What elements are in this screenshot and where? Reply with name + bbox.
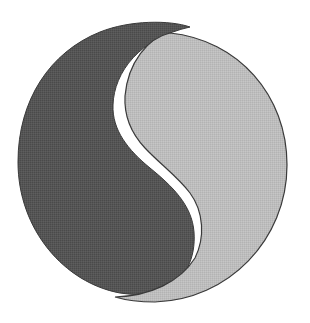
- yin-yang-emblem: [0, 0, 310, 323]
- yin-yang-graphic: [0, 0, 310, 323]
